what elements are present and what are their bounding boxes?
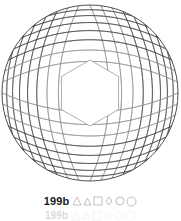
figure-container bbox=[0, 0, 181, 190]
square-icon bbox=[93, 196, 103, 206]
glyph-strip bbox=[72, 196, 137, 207]
ghost-caption: 199b bbox=[0, 210, 181, 221]
caption: 199b bbox=[0, 193, 181, 209]
figure-plate: 199b 199b bbox=[0, 0, 181, 221]
diamond-icon bbox=[103, 211, 113, 221]
triangle-small-icon bbox=[82, 211, 91, 220]
circle-icon bbox=[115, 196, 125, 206]
triangle-small-icon bbox=[83, 197, 92, 206]
figure-number-label: 199b bbox=[44, 196, 69, 207]
circle-large-icon bbox=[126, 196, 137, 207]
circle-icon bbox=[114, 211, 124, 221]
ghost-glyph-strip bbox=[71, 210, 136, 221]
circle-large-icon bbox=[125, 210, 136, 221]
triangle-icon bbox=[71, 211, 81, 221]
diamond-icon bbox=[104, 196, 114, 206]
arc-lattice-figure bbox=[0, 0, 181, 190]
square-icon bbox=[92, 211, 102, 221]
triangle-icon bbox=[72, 196, 82, 206]
ghost-figure-number-label: 199b bbox=[45, 211, 68, 221]
